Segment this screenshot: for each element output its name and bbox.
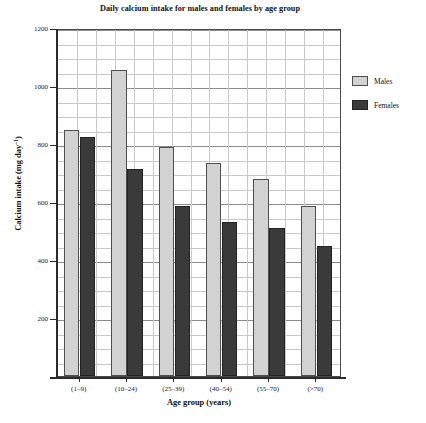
y-axis-tick: [50, 319, 57, 320]
bar-male: [206, 163, 222, 376]
y-axis-tick: [50, 29, 57, 30]
bar-male: [111, 70, 127, 376]
x-axis-tick: [315, 377, 316, 382]
x-axis-tick: [173, 377, 174, 382]
x-axis-line: [50, 377, 346, 379]
legend-swatch-males: [352, 76, 368, 86]
legend-item: Females: [352, 100, 424, 110]
plot-area: [57, 29, 341, 377]
y-axis-title-exponent: –1: [13, 139, 19, 145]
bar-female: [222, 222, 238, 376]
legend-label: Females: [374, 101, 399, 110]
y-axis-tick: [50, 261, 57, 262]
bar-female: [175, 206, 191, 376]
x-axis-tick: [126, 377, 127, 382]
y-axis-tick: [50, 145, 57, 146]
y-axis-title-base: Calcium intake (mg day: [14, 145, 23, 231]
bar-male: [64, 130, 80, 377]
chart-title: Daily calcium intake for males and femal…: [45, 4, 355, 14]
x-axis-tick-label: (>70): [287, 385, 343, 393]
bars-layer: [58, 30, 340, 376]
bar-male: [159, 147, 175, 376]
bar-female: [80, 137, 96, 376]
chart-figure: Daily calcium intake for males and femal…: [0, 0, 426, 423]
x-axis-title: Age group (years): [57, 398, 341, 407]
bar-male: [301, 206, 317, 376]
legend-item: Males: [352, 76, 424, 86]
bar-female: [269, 228, 285, 376]
y-axis-tick-label: 1200: [12, 26, 48, 33]
y-axis-tick-label: 1000: [12, 84, 48, 91]
y-axis-tick-label: 200: [12, 316, 48, 323]
y-axis-title: Calcium intake (mg day–1): [13, 103, 24, 263]
y-axis-tick: [50, 87, 57, 88]
y-axis-tick: [50, 203, 57, 204]
legend-swatch-females: [352, 100, 368, 110]
chart-legend: MalesFemales: [352, 76, 424, 124]
x-axis-tick: [268, 377, 269, 382]
legend-label: Males: [374, 77, 392, 86]
bar-female: [127, 169, 143, 376]
y-axis-title-tail: ): [14, 136, 23, 139]
bar-female: [317, 246, 333, 377]
bar-male: [253, 179, 269, 376]
x-axis-tick: [221, 377, 222, 382]
x-axis-tick: [79, 377, 80, 382]
